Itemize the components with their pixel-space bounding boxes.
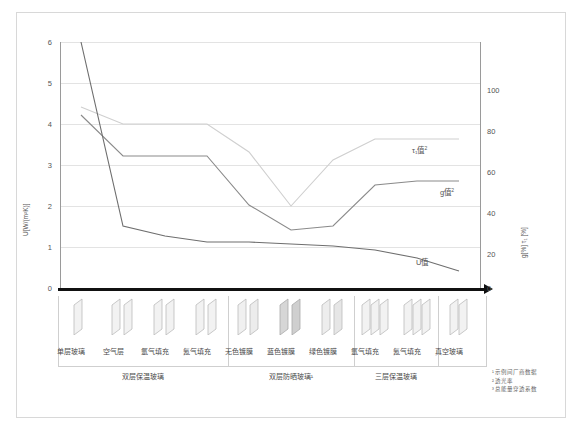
glass-pane-coated-clear <box>234 297 264 335</box>
y-tick-left: 2 <box>30 202 52 211</box>
series-lines <box>60 42 482 290</box>
series-label-u: U值 <box>416 256 428 267</box>
y-tick-right: 40 <box>487 209 513 218</box>
chart-root: 6 5 4 3 2 1 0 100 80 60 40 20 0 U[W/(m²K… <box>0 0 580 428</box>
group-tick <box>228 362 229 367</box>
y-tick-right: 60 <box>487 168 513 177</box>
footnote-2: ² 透光率 <box>492 377 537 386</box>
glass-pane-vacuum <box>444 297 474 335</box>
y-tick-right: 100 <box>487 86 513 95</box>
y-tick-left: 0 <box>30 284 52 293</box>
series-line-g <box>81 115 459 230</box>
glass-pane-double <box>108 297 138 335</box>
glass-pane-coated-blue <box>276 297 306 335</box>
glass-pane-single <box>66 297 96 335</box>
y-tick-right: 80 <box>487 127 513 136</box>
series-label-g: g值2 <box>440 186 454 197</box>
footnotes: ¹ 示例间厂商数据 ² 透光率 ³ 总能量穿透系数 <box>492 368 537 394</box>
glass-pane-triple <box>360 297 390 335</box>
glass-pane-coated-green <box>318 297 348 335</box>
y-tick-left: 1 <box>30 243 52 252</box>
series-label-tau1: τ₁值2 <box>412 144 427 155</box>
group-tick <box>438 362 439 367</box>
group-label: 双层保温玻璃 <box>98 371 188 381</box>
glass-pane-triple <box>402 297 432 335</box>
glass-pane-row <box>58 297 486 341</box>
group-label: 双层防晒玻璃¹ <box>246 371 336 381</box>
group-label: 三层保温玻璃 <box>351 371 441 381</box>
group-separator <box>486 296 487 364</box>
group-axis-line <box>58 366 486 367</box>
y-tick-left: 3 <box>30 161 52 170</box>
y-axis-right-label: g[%] τ₁ [%] <box>520 227 527 258</box>
group-tick <box>58 362 59 367</box>
y-tick-left: 4 <box>30 120 52 129</box>
y-tick-right: 20 <box>487 250 513 259</box>
y-tick-left: 6 <box>30 38 52 47</box>
group-tick <box>354 362 355 367</box>
x-category-label: 真空玻璃 <box>414 346 484 356</box>
footnote-3: ³ 总能量穿透系数 <box>492 385 537 394</box>
y-tick-right: 0 <box>487 284 513 293</box>
glass-pane-double <box>150 297 180 335</box>
group-tick <box>486 362 487 367</box>
y-axis-left-label: U[W/(m²K)] <box>22 204 29 237</box>
glass-pane-double <box>192 297 222 335</box>
y-tick-left: 5 <box>30 79 52 88</box>
footnote-1: ¹ 示例间厂商数据 <box>492 368 537 377</box>
